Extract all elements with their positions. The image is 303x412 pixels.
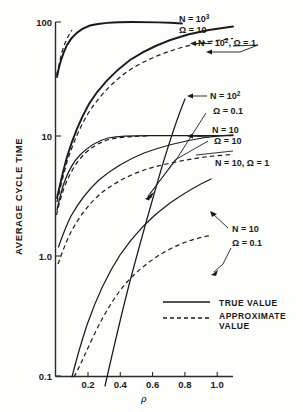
legend-label-true: TRUE VALUE (219, 298, 278, 308)
annotation-n10-om10-line2: Ω = 10 (214, 136, 241, 146)
leader-n10-om10-down (150, 141, 208, 194)
annotation-n1000-om10-sup: 3 (206, 13, 210, 20)
annotation-n100-om01-n: N = 10 (210, 91, 237, 101)
log-line-chart: 100 10 1.0 0.1 0.2 0.4 0.6 0.8 1.0 AVERA… (0, 0, 303, 412)
curve-n10-om01-approx (74, 236, 212, 378)
arrowhead-n100-om1-dashed (206, 50, 212, 55)
annotation-n100-om01-sup: 2 (237, 90, 241, 97)
legend-label-approx-line2: VALUE (219, 321, 250, 331)
curves-group (57, 22, 234, 386)
curve-n10-om10-true (57, 136, 233, 210)
annotation-n10-om01-line2: Ω = 0.1 (232, 238, 262, 248)
curve-n100-om1-approx (57, 39, 233, 203)
annotation-n1000-om10-line2: Ω = 10 (179, 25, 206, 35)
annotation-n10-om10-line1: N = 10 (212, 125, 239, 135)
tick-labels-group: 100 10 1.0 0.1 0.2 0.4 0.6 0.8 1.0 (36, 17, 224, 391)
annotation-n100-om01-line1: N = 102 (210, 90, 241, 102)
leader-n10-om01-dashed (214, 248, 231, 272)
annotation-n10-om1-omega: , Ω = 1 (242, 158, 269, 168)
x-tick-label-08: 0.8 (178, 379, 191, 390)
annotation-n10-om01-line1: N = 10 (232, 224, 259, 234)
annotation-n1000-om10-n: N = 10 (179, 14, 206, 24)
y-tick-label-10: 10 (41, 131, 52, 142)
annotation-n100-om1-omega: , Ω = 1 (228, 38, 255, 48)
x-tick-label-04: 0.4 (114, 379, 128, 390)
curve-n100-om01-true (105, 99, 185, 386)
x-tick-label-02: 0.2 (81, 379, 94, 390)
arrowhead-n100-om01 (187, 94, 193, 99)
annotation-n100-om1: N = 102, Ω = 1 (198, 37, 256, 49)
curve-n10-om1-true (59, 135, 234, 247)
arrowhead-n10-om01-solid (210, 211, 217, 217)
legend-label-approx-line1: APPROXIMATE (219, 311, 286, 321)
annotation-n100-om01-line2: Ω = 0.1 (213, 106, 243, 116)
annotation-n1000-om10-line1: N = 103 (179, 13, 210, 25)
curve-n10-om01-true (72, 179, 211, 377)
annotation-n10-om1: N = 10, Ω = 1 (215, 158, 269, 168)
annotation-n100-om1-n: N = 10 (198, 38, 225, 48)
curve-n10-om1-approx (58, 155, 233, 265)
leader-n10-om01-solid (213, 214, 228, 228)
y-tick-label-01: 0.1 (39, 371, 53, 382)
annotations-group: N = 103 Ω = 10 N = 102, Ω = 1 N = 102 Ω … (179, 13, 269, 249)
figure-container: 100 10 1.0 0.1 0.2 0.4 0.6 0.8 1.0 AVERA… (0, 0, 303, 412)
annotation-n10-om1-n: N = 10 (215, 158, 242, 168)
y-tick-label-100: 100 (36, 17, 52, 28)
arrowhead-n10-om01-dashed (211, 270, 218, 276)
x-tick-label-10: 1.0 (211, 379, 224, 390)
x-tick-label-06: 0.6 (146, 379, 159, 390)
arrowhead-n100-om1-solid (190, 41, 196, 46)
y-tick-label-1: 1.0 (39, 251, 52, 262)
legend: TRUE VALUE APPROXIMATE VALUE (163, 298, 286, 332)
y-axis-title: AVERAGE CYCLE TIME (13, 138, 24, 255)
x-axis-title: ρ (140, 392, 146, 404)
